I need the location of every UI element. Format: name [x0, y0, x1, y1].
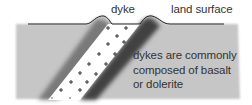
- dyke-dot: [69, 97, 70, 98]
- land-surface-line: [28, 16, 224, 24]
- description-line: or dolerite: [133, 77, 237, 92]
- land-surface-label: land surface: [171, 3, 232, 16]
- description-line: dykes are commonly: [133, 48, 237, 63]
- dyke-description: dykes are commonly composed of basalt or…: [133, 48, 237, 92]
- dyke-dot: [51, 97, 52, 98]
- dyke-label: dyke: [111, 3, 135, 16]
- description-line: composed of basalt: [133, 63, 237, 78]
